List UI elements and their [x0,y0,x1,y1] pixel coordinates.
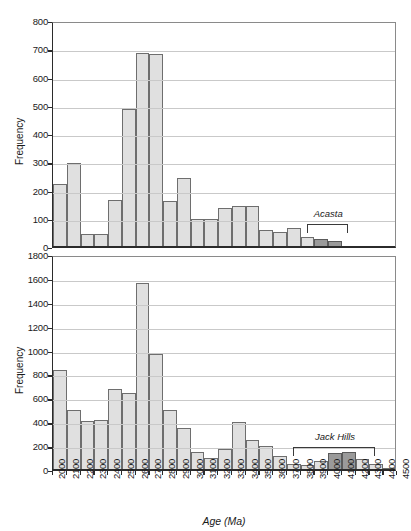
x-tick-label: 4300 [372,459,383,479]
histogram-bar [259,230,273,246]
gridline [53,424,395,425]
gridline [53,305,395,306]
x-tick-label: 2100 [70,459,81,479]
y-tick-label: 1800 [8,250,48,261]
y-tick-label: 800 [8,16,48,27]
histogram-bar [149,54,163,246]
x-tick-mark [203,471,204,475]
y-tick-mark [48,280,52,281]
y-tick-label: 400 [8,417,48,428]
histogram-bar [177,178,191,246]
y-tick-label: 700 [8,44,48,55]
y-tick-mark [48,328,52,329]
histogram-bar [218,208,232,246]
x-tick-label: 2800 [166,459,177,479]
x-tick-mark [190,471,191,475]
y-tick-label: 200 [8,186,48,197]
x-tick-mark [313,471,314,475]
x-tick-label: 4200 [359,459,370,479]
x-tick-label: 2600 [139,459,150,479]
gridline [53,281,395,282]
gridline [53,376,395,377]
histogram-bar [108,200,122,246]
x-tick-mark [286,471,287,475]
gridline [53,353,395,354]
x-tick-label: 3600 [276,459,287,479]
y-tick-mark [48,375,52,376]
x-tick-label: 3300 [235,459,246,479]
x-tick-mark [176,471,177,475]
y-tick-mark [48,304,52,305]
y-tick-mark [48,163,52,164]
x-tick-label: 4400 [386,459,397,479]
y-tick-mark [48,79,52,80]
x-tick-label: 3900 [317,459,328,479]
x-tick-mark [121,471,122,475]
y-tick-mark [48,107,52,108]
y-tick-label: 200 [8,441,48,452]
y-tick-label: 1600 [8,274,48,285]
x-tick-label: 4500 [400,459,411,479]
x-tick-label: 2400 [111,459,122,479]
x-tick-label: 3700 [290,459,301,479]
histogram-bar [383,245,396,246]
y-tick-mark [48,22,52,23]
gridline [53,164,395,165]
y-tick-mark [48,135,52,136]
x-tick-mark [148,471,149,475]
x-tick-mark [368,471,369,475]
x-axis-title: Age (Ma) [52,515,396,527]
y-tick-mark [48,256,52,257]
x-tick-mark [231,471,232,475]
x-tick-label: 2900 [180,459,191,479]
histogram-bar [369,245,383,246]
y-tick-mark [48,248,52,249]
histogram-bar [342,245,356,246]
histogram-bar [53,184,67,246]
x-tick-label: 3500 [262,459,273,479]
x-tick-mark [272,471,273,475]
x-tick-mark [258,471,259,475]
y-tick-mark [48,447,52,448]
x-tick-mark [52,471,53,475]
x-tick-mark [355,471,356,475]
gridline [53,329,395,330]
gridline [53,221,395,222]
histogram-bar [314,239,328,246]
y-tick-label: 100 [8,214,48,225]
x-tick-mark [245,471,246,475]
x-tick-mark [93,471,94,475]
x-tick-mark [135,471,136,475]
x-tick-label: 2300 [97,459,108,479]
x-tick-mark [396,471,397,475]
x-tick-mark [80,471,81,475]
histogram-bar [94,234,108,246]
x-tick-label: 4000 [331,459,342,479]
x-tick-label: 3000 [194,459,205,479]
histogram-bar [356,245,370,246]
group-label-jack-hills: Jack Hills [287,431,384,442]
histogram-bar [328,241,342,246]
group-bracket-acasta [307,224,348,233]
group-bracket-jack-hills [293,447,376,456]
gridline [53,193,395,194]
x-tick-mark [382,471,383,475]
x-tick-label: 2200 [84,459,95,479]
x-tick-label: 2700 [152,459,163,479]
histogram-bar [163,201,177,246]
histogram-bar [81,234,95,246]
x-tick-mark [217,471,218,475]
group-label-acasta: Acasta [301,208,356,219]
x-tick-mark [300,471,301,475]
histogram-bar [301,237,315,246]
y-tick-mark [48,352,52,353]
histogram-bar [136,53,150,246]
y-tick-label: 1400 [8,298,48,309]
histogram-bar [246,206,260,246]
histogram-bar [122,393,136,469]
x-tick-mark [107,471,108,475]
histogram-bar [204,219,218,246]
x-tick-mark [341,471,342,475]
x-tick-label: 3400 [249,459,260,479]
